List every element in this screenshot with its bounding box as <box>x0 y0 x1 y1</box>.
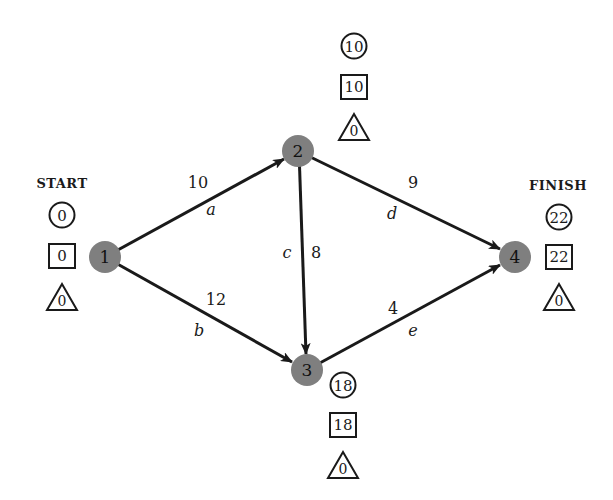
edge-c-duration: 8 <box>311 245 321 261</box>
node-4-label: 4 <box>510 247 521 267</box>
node-3: 3 <box>291 354 323 386</box>
node-4: 4 <box>499 241 531 273</box>
node-2-latest-square: 10 <box>340 74 368 100</box>
node-4-earliest-circle: 22 <box>546 204 573 231</box>
edge-d <box>298 151 500 249</box>
edge-e <box>307 265 500 370</box>
edge-e-duration: 4 <box>388 301 398 317</box>
start-label: START <box>36 176 87 191</box>
node-3-slack-triangle: 0 <box>326 450 360 480</box>
node-1-latest-square: 0 <box>48 243 76 269</box>
edge-e-activity: e <box>408 323 417 339</box>
edge-c-activity: c <box>283 245 292 261</box>
node-2-earliest-circle: 10 <box>341 33 368 60</box>
node-1: 1 <box>89 241 121 273</box>
node-3-latest-square: 18 <box>329 412 357 438</box>
edge-d-activity: d <box>387 206 397 222</box>
node-2-slack-triangle: 0 <box>337 112 371 142</box>
edge-c <box>299 151 306 354</box>
node-1-earliest-circle: 0 <box>49 202 76 229</box>
node-3-earliest-circle: 18 <box>330 372 357 399</box>
node-1-label: 1 <box>100 247 111 267</box>
edge-b <box>105 257 292 362</box>
edge-a-duration: 10 <box>188 175 208 191</box>
node-4-slack-triangle: 0 <box>542 282 576 312</box>
edge-b-duration: 12 <box>206 292 226 308</box>
node-3-label: 3 <box>302 360 313 380</box>
node-2-label: 2 <box>293 141 304 161</box>
node-2: 2 <box>282 135 314 167</box>
edge-a-activity: a <box>206 202 216 218</box>
finish-label: FINISH <box>529 178 587 193</box>
edge-b-activity: b <box>194 323 204 339</box>
node-1-slack-triangle: 0 <box>45 282 79 312</box>
node-4-latest-square: 22 <box>545 244 573 270</box>
edge-d-duration: 9 <box>408 175 418 191</box>
